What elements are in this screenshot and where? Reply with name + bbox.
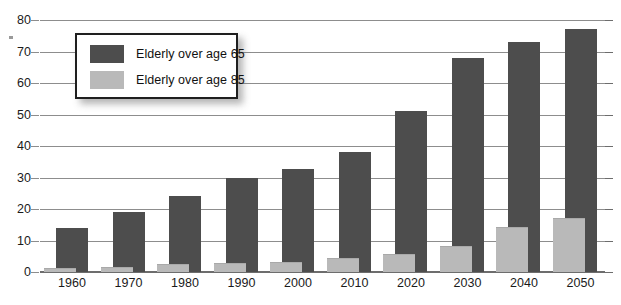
y-axis-tick-label: 30 — [5, 171, 31, 185]
legend-label-elderly-over-65: Elderly over age 65 — [136, 47, 245, 61]
bar-elderly-over-65 — [169, 196, 201, 272]
x-axis-tick-label: 2030 — [453, 276, 481, 290]
bar-elderly-over-65 — [226, 178, 258, 273]
x-axis-tick-label: 1960 — [58, 276, 86, 290]
y-axis-tick-right — [605, 146, 613, 147]
bar-elderly-over-65 — [113, 212, 145, 272]
bar-group — [549, 20, 606, 272]
legend-swatch-light-icon — [90, 71, 124, 89]
y-axis-tick-right — [605, 52, 613, 53]
y-axis-tick — [31, 83, 39, 84]
bar-elderly-over-65 — [56, 228, 88, 272]
bar-elderly-over-85 — [101, 267, 133, 272]
y-axis-tick-right — [605, 241, 613, 242]
legend-entry-elderly-over-65: Elderly over age 65 — [90, 45, 245, 63]
legend-label-elderly-over-85: Elderly over age 85 — [136, 73, 245, 87]
y-axis-tick-right — [605, 83, 613, 84]
x-axis-tick-label: 2000 — [284, 276, 312, 290]
x-axis-tick-label: 1980 — [171, 276, 199, 290]
y-axis-tick-label: 80 — [5, 13, 31, 27]
y-axis-tick-right — [605, 272, 613, 273]
y-axis-tick-label: 40 — [5, 139, 31, 153]
y-axis-tick — [31, 52, 39, 53]
x-axis-tick-label: 2050 — [566, 276, 594, 290]
bar-elderly-over-85 — [214, 263, 246, 272]
chart-legend: Elderly over age 65 Elderly over age 85 — [75, 33, 238, 99]
y-axis-tick — [31, 146, 39, 147]
bar-elderly-over-65 — [452, 58, 484, 272]
y-axis-tick-label: 10 — [5, 234, 31, 248]
y-axis-tick — [31, 272, 39, 273]
y-axis-tick — [31, 241, 39, 242]
bar-elderly-over-85 — [553, 218, 585, 272]
bar-group — [436, 20, 493, 272]
y-axis-tick-label: 70 — [5, 45, 31, 59]
legend-entry-elderly-over-85: Elderly over age 85 — [90, 71, 245, 89]
bar-elderly-over-65 — [282, 169, 314, 272]
bar-group — [379, 20, 436, 272]
y-axis-tick-label: 20 — [5, 202, 31, 216]
legend-swatch-dark-icon — [90, 45, 124, 63]
y-axis-tick — [31, 115, 39, 116]
bar-group — [266, 20, 323, 272]
bar-elderly-over-85 — [327, 258, 359, 272]
y-axis-tick — [31, 209, 39, 210]
bar-elderly-over-85 — [440, 246, 472, 272]
x-axis-tick-label: 2010 — [340, 276, 368, 290]
bar-group — [492, 20, 549, 272]
bar-group — [323, 20, 380, 272]
bar-elderly-over-65 — [395, 111, 427, 272]
y-axis: 01020304050607080 — [0, 20, 31, 272]
y-axis-tick-label: 50 — [5, 108, 31, 122]
y-axis-tick — [31, 20, 39, 21]
y-axis-tick-right — [605, 115, 613, 116]
bar-elderly-over-85 — [270, 262, 302, 272]
x-axis-tick-label: 1970 — [114, 276, 142, 290]
y-axis-tick-right — [605, 209, 613, 210]
x-axis-tick-label: 2040 — [510, 276, 538, 290]
y-axis-tick-label: 0 — [5, 265, 31, 279]
y-axis-tick-right — [605, 178, 613, 179]
bar-elderly-over-85 — [157, 264, 189, 272]
bar-elderly-over-85 — [383, 254, 415, 272]
x-axis-tick-label: 1990 — [227, 276, 255, 290]
bar-chart: 01020304050607080 Elderly over age 65 El… — [0, 0, 621, 305]
y-axis-tick-right — [605, 20, 613, 21]
bar-elderly-over-85 — [44, 268, 76, 272]
bar-elderly-over-65 — [339, 152, 371, 272]
x-axis-tick-label: 2020 — [397, 276, 425, 290]
y-axis-tick-label: 60 — [5, 76, 31, 90]
bar-elderly-over-85 — [496, 227, 528, 272]
y-axis-tick — [31, 178, 39, 179]
